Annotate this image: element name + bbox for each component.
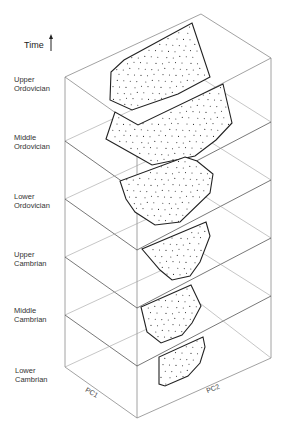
layer-label-upper-cambrian: UpperCambrian [14,251,47,268]
layer-label-lower-ordovician: LowerOrdovician [14,193,50,210]
layer-label-lower-cambrian: LowerCambrian [15,367,48,384]
layer-label-middle-ordovician: MiddleOrdovician [14,134,50,151]
time-arrow-icon [48,34,54,52]
morphospace-diagram: Time UpperOrdovician MiddleOrdovician Lo… [0,0,281,430]
layer-label-middle-cambrian: MiddleCambrian [14,307,47,324]
time-axis-label: Time [24,40,44,50]
layer-label-upper-ordovician: UpperOrdovician [14,76,50,93]
morphospace-polygons [106,23,232,386]
morphospace-polygon-3 [142,222,210,280]
morphospace-polygon-4 [141,285,201,343]
morphospace-polygon-5 [159,337,205,386]
stacked-box-figure [0,0,281,430]
